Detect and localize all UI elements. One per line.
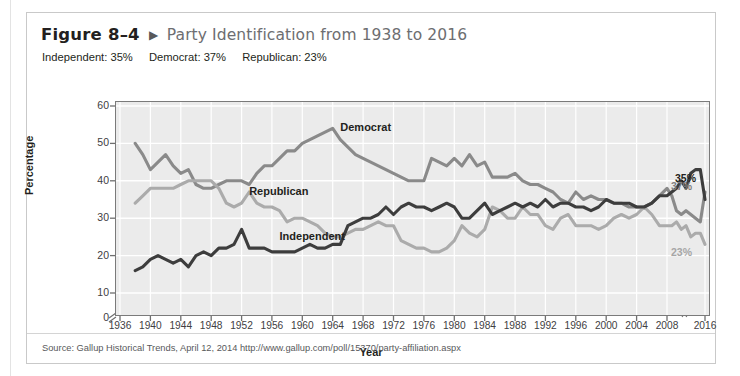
page-gutter-rule bbox=[10, 0, 11, 376]
source-text: Source: Gallup Historical Trends, April … bbox=[42, 343, 461, 353]
chart-area: Percentage 0102030405060 193619401944194… bbox=[27, 67, 715, 333]
subtitle-democrat: Democrat: 37% bbox=[149, 51, 226, 63]
subtitle-republican: Republican: 23% bbox=[242, 51, 327, 63]
plot-region bbox=[115, 101, 710, 316]
series-lines bbox=[116, 102, 709, 315]
triangle-right-icon: ▶ bbox=[149, 28, 158, 42]
figure-heading: Figure 8–4 ▶ Party Identification from 1… bbox=[41, 25, 467, 44]
end-label-republican: 23% bbox=[671, 246, 692, 258]
figure-title: Party Identification from 1938 to 2016 bbox=[167, 26, 467, 44]
end-label-democrat: 37% bbox=[671, 180, 692, 192]
series-annotation-independent: Independent bbox=[280, 230, 345, 242]
figure-card: Figure 8–4 ▶ Party Identification from 1… bbox=[26, 12, 716, 364]
figure-number: Figure 8–4 bbox=[41, 25, 140, 44]
page-root: Figure 8–4 ▶ Party Identification from 1… bbox=[0, 0, 740, 376]
series-annotation-democrat: Democrat bbox=[340, 121, 391, 133]
figure-subtitle: Independent: 35% Democrat: 37% Republica… bbox=[42, 51, 327, 63]
subtitle-independent: Independent: 35% bbox=[42, 51, 133, 63]
series-annotation-republican: Republican bbox=[249, 185, 308, 197]
source-note: Source: Gallup Historical Trends, April … bbox=[27, 333, 715, 363]
